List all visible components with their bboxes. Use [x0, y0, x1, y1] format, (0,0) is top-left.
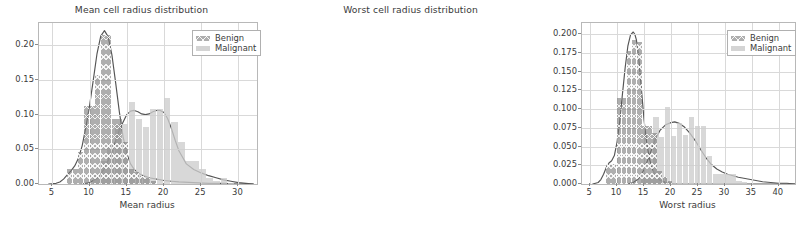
y-tick-mark: [35, 114, 38, 115]
y-tick-mark: [35, 44, 38, 45]
y-tick-mark: [578, 164, 581, 165]
histogram-bar-benign: [95, 75, 100, 184]
grid-line-horizontal: [582, 184, 795, 185]
x-tick-mark: [616, 183, 617, 186]
y-tick-label: 0.000: [269, 178, 577, 188]
legend-label-benign: Benign: [750, 33, 779, 43]
x-tick-label: 20: [151, 187, 175, 197]
histogram-bar-malignant: [683, 135, 688, 184]
legend-right: Benign Malignant: [727, 30, 796, 56]
histogram-bar-benign: [84, 106, 89, 184]
y-tick-label: 0.20: [0, 39, 34, 49]
histogram-bar-malignant: [724, 174, 729, 184]
histogram-bar-malignant: [221, 178, 227, 184]
histogram-bar-benign: [134, 172, 139, 184]
x-tick-mark: [200, 183, 201, 186]
chart-title-left: Mean cell radius distribution: [0, 4, 269, 15]
grid-line-horizontal: [582, 90, 795, 91]
histogram-bar-benign: [117, 119, 122, 184]
y-tick-mark: [578, 108, 581, 109]
histogram-bar-benign: [627, 51, 632, 184]
x-tick-label: 15: [631, 187, 655, 197]
x-tick-label: 10: [604, 187, 628, 197]
histogram-bar-benign: [67, 169, 72, 184]
y-tick-mark: [578, 89, 581, 90]
histogram-bar-benign: [140, 176, 145, 184]
x-tick-mark: [589, 183, 590, 186]
histogram-bar-benign: [637, 42, 642, 184]
legend-item-benign: Benign: [196, 33, 256, 43]
x-axis-label-left: Mean radius: [38, 200, 256, 210]
histogram-bar-malignant: [713, 174, 718, 184]
x-tick-mark: [163, 183, 164, 186]
grid-line-vertical: [52, 23, 53, 184]
x-tick-mark: [237, 183, 238, 186]
x-tick-mark: [89, 183, 90, 186]
histogram-bar-benign: [78, 152, 83, 184]
grid-line-horizontal: [582, 72, 795, 73]
x-tick-mark: [643, 183, 644, 186]
y-tick-label: 0.00: [0, 178, 34, 188]
y-tick-label: 0.05: [0, 143, 34, 153]
x-tick-mark: [751, 183, 752, 186]
x-tick-label: 5: [577, 187, 601, 197]
histogram-bar-malignant: [213, 181, 219, 184]
legend-swatch-benign-icon: [731, 36, 745, 41]
chart-panel-mean-radius: Mean cell radius distribution Mean radiu…: [0, 0, 269, 225]
y-tick-label: 0.175: [269, 47, 577, 57]
histogram-bar-benign: [642, 126, 647, 184]
grid-line-horizontal: [39, 80, 257, 81]
x-tick-label: 10: [77, 187, 101, 197]
histogram-bar-benign: [617, 98, 622, 184]
x-tick-label: 20: [658, 187, 682, 197]
y-tick-mark: [578, 52, 581, 53]
histogram-bar-benign: [652, 133, 657, 184]
legend-swatch-malignant-icon: [196, 46, 210, 51]
histogram-bar-benign: [73, 169, 78, 184]
legend-item-benign: Benign: [731, 33, 791, 43]
x-tick-label: 5: [39, 187, 63, 197]
y-tick-label: 0.125: [269, 84, 577, 94]
y-tick-label: 0.10: [0, 109, 34, 119]
y-tick-mark: [578, 127, 581, 128]
y-tick-label: 0.075: [269, 122, 577, 132]
histogram-bar-malignant: [677, 123, 682, 184]
histogram-bar-benign: [611, 164, 616, 184]
histogram-bar-malignant: [199, 169, 205, 184]
y-tick-label: 0.100: [269, 103, 577, 113]
y-tick-mark: [35, 148, 38, 149]
legend-label-malignant: Malignant: [750, 43, 791, 53]
histogram-bar-benign: [145, 178, 150, 184]
legend-swatch-malignant-icon: [731, 46, 745, 51]
y-tick-mark: [578, 71, 581, 72]
histogram-bar-benign: [151, 181, 156, 184]
y-tick-mark: [35, 183, 38, 184]
legend-item-malignant: Malignant: [196, 43, 256, 53]
x-tick-mark: [724, 183, 725, 186]
histogram-bar-malignant: [185, 161, 191, 184]
histogram-bar-malignant: [671, 136, 676, 184]
histogram-bar-malignant: [157, 109, 163, 184]
histogram-bar-benign: [647, 126, 652, 184]
y-tick-mark: [578, 146, 581, 147]
histogram-bar-malignant: [707, 156, 712, 184]
y-tick-label: 0.15: [0, 74, 34, 84]
x-tick-mark: [670, 183, 671, 186]
histogram-bar-malignant: [192, 161, 198, 184]
legend-label-malignant: Malignant: [215, 43, 256, 53]
histogram-bar-benign: [663, 177, 668, 184]
x-tick-label: 30: [712, 187, 736, 197]
histogram-bar-benign: [657, 171, 662, 184]
histogram-bar-benign: [112, 119, 117, 184]
histogram-bar-malignant: [178, 142, 184, 184]
x-tick-mark: [778, 183, 779, 186]
grid-line-horizontal: [39, 115, 257, 116]
y-tick-label: 0.200: [269, 28, 577, 38]
x-tick-label: 35: [739, 187, 763, 197]
y-tick-mark: [35, 79, 38, 80]
histogram-bar-benign: [632, 40, 637, 184]
histogram-bar-malignant: [695, 126, 700, 184]
x-tick-label: 25: [685, 187, 709, 197]
grid-line-horizontal: [39, 184, 257, 185]
